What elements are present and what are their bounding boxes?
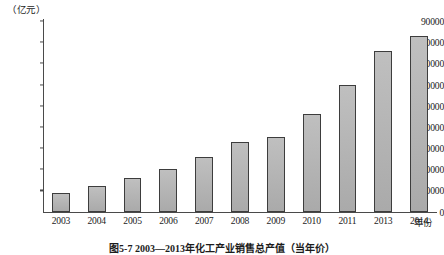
x-axis-tick-label: 2013 <box>374 215 392 226</box>
bar <box>52 193 70 212</box>
figure-caption: 图5-7 2003—2013年化工产业销售总产值（当年价） <box>0 240 444 255</box>
bar <box>159 169 177 211</box>
x-axis-tick-label: 2010 <box>302 215 320 226</box>
x-axis-tick-label: 2006 <box>159 215 177 226</box>
bar <box>410 36 428 212</box>
bar <box>339 85 357 212</box>
x-axis-title: 年份 <box>414 215 432 229</box>
bar <box>231 142 249 212</box>
x-axis-tick-label: 2004 <box>88 215 106 226</box>
x-axis-line <box>43 212 437 213</box>
bar <box>195 157 213 212</box>
bar <box>124 178 142 212</box>
x-axis-tick-label: 2008 <box>231 215 249 226</box>
bar-series <box>43 21 437 212</box>
x-axis-tick-label: 2007 <box>195 215 213 226</box>
x-axis-tick-label: 2009 <box>267 215 285 226</box>
y-axis-unit-label: （亿元） <box>7 2 46 16</box>
bar <box>267 137 285 211</box>
bar <box>303 114 321 211</box>
x-axis-tick-label: 2011 <box>338 215 356 226</box>
x-axis-tick-label: 2005 <box>123 215 141 226</box>
bar <box>88 186 106 211</box>
x-axis-tick-label: 2003 <box>52 215 70 226</box>
bar <box>374 51 392 212</box>
